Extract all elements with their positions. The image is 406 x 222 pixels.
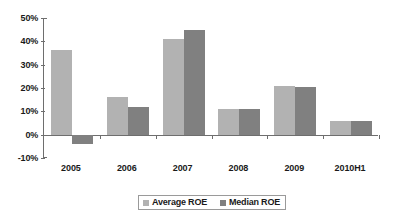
y-axis-tick <box>41 18 45 19</box>
chart-legend: Average ROE Median ROE <box>138 195 286 210</box>
y-axis-tick <box>41 158 45 159</box>
y-axis-tick <box>41 41 45 42</box>
x-tick-label: 2007 <box>155 163 211 173</box>
x-axis-tick <box>212 135 213 139</box>
legend-swatch-icon <box>143 200 149 206</box>
x-tick-label: 2009 <box>266 163 322 173</box>
bar-2010H1-median <box>351 121 372 135</box>
bar-2008-average <box>218 109 239 135</box>
y-axis: 50% 40% 30% 20% 10% 0% -10% <box>0 0 38 222</box>
x-axis-tick <box>323 135 324 139</box>
bar-2008-median <box>239 109 260 135</box>
bar-2009-median <box>295 87 316 135</box>
bar-2007-average <box>163 39 184 135</box>
y-tick-label: 10% <box>0 107 38 116</box>
legend-entry-average-roe: Average ROE <box>143 198 207 207</box>
bar-2010H1-average <box>330 121 351 135</box>
y-tick-label: -10% <box>0 154 38 163</box>
legend-label: Median ROE <box>229 198 280 207</box>
bar-2009-average <box>274 86 295 135</box>
x-tick-label: 2010H1 <box>322 163 378 173</box>
y-axis-tick <box>41 65 45 66</box>
legend-label: Average ROE <box>152 198 207 207</box>
bar-2005-median <box>72 135 93 144</box>
bar-2007-median <box>184 30 205 135</box>
y-tick-label: 30% <box>0 61 38 70</box>
legend-swatch-icon <box>220 200 226 206</box>
y-tick-label: 20% <box>0 84 38 93</box>
x-axis-tick <box>156 135 157 139</box>
plot-area <box>43 18 378 158</box>
x-axis-tick <box>379 135 380 139</box>
x-axis-tick <box>100 135 101 139</box>
x-tick-label: 2008 <box>211 163 267 173</box>
bar-2006-average <box>107 97 128 134</box>
y-tick-label: 50% <box>0 14 38 23</box>
x-tick-label: 2006 <box>99 163 155 173</box>
bar-2006-median <box>128 107 149 135</box>
roe-bar-chart: 50% 40% 30% 20% 10% 0% -10% 2005 2006 20… <box>0 0 406 222</box>
x-axis: 2005 2006 2007 2008 2009 2010H1 <box>43 163 378 177</box>
y-tick-label: 40% <box>0 37 38 46</box>
y-axis-tick <box>41 88 45 89</box>
legend-entry-median-roe: Median ROE <box>220 198 280 207</box>
x-axis-tick <box>267 135 268 139</box>
bar-2005-average <box>51 50 72 135</box>
x-tick-label: 2005 <box>43 163 99 173</box>
y-tick-label: 0% <box>0 131 38 140</box>
y-axis-tick <box>41 111 45 112</box>
